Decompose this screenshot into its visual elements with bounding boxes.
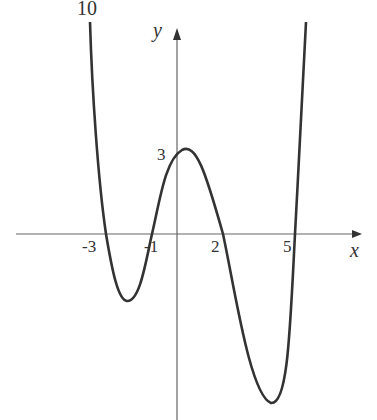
x-axis-arrow-icon [352,230,362,238]
y-tick-3: 3 [157,146,166,163]
y-axis-arrow-icon [173,28,181,40]
x-axis-label: x [350,240,359,260]
y-axis-label: y [153,20,162,40]
x-tick-neg3: -3 [82,238,96,255]
x-tick-neg1: -1 [144,238,158,255]
x-tick-2: 2 [211,238,220,255]
function-graph [0,0,377,420]
function-curve [90,22,306,403]
x-tick-5: 5 [283,238,292,255]
